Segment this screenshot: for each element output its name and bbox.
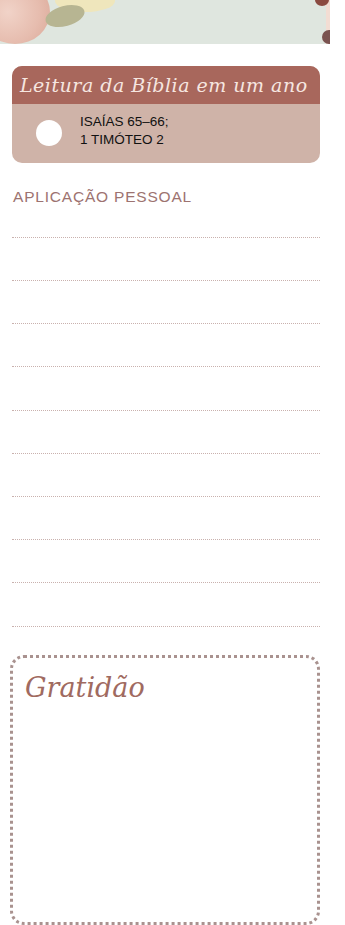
floral-banner xyxy=(0,0,330,44)
reading-plan-card: Leitura da Bíblia em um ano ISAÍAS 65–66… xyxy=(12,66,320,163)
writing-line[interactable] xyxy=(12,366,320,367)
writing-line[interactable] xyxy=(12,496,320,497)
leaf-decoration xyxy=(43,1,87,31)
rose-decoration xyxy=(0,0,50,44)
writing-line[interactable] xyxy=(12,453,320,454)
reading-plan-title: Leitura da Bíblia em um ano xyxy=(12,66,320,104)
writing-line[interactable] xyxy=(12,237,320,238)
writing-line[interactable] xyxy=(12,582,320,583)
writing-line[interactable] xyxy=(12,280,320,281)
reading-ref-line2: 1 TIMÓTEO 2 xyxy=(80,131,169,149)
berry-decoration xyxy=(322,30,330,44)
writing-line[interactable] xyxy=(12,539,320,540)
reading-plan-body: ISAÍAS 65–66; 1 TIMÓTEO 2 xyxy=(12,104,320,163)
personal-application-title: APLICAÇÃO PESSOAL xyxy=(13,188,192,206)
gratitude-title: Gratidão xyxy=(25,672,145,703)
reading-checkbox[interactable] xyxy=(36,120,62,146)
reading-ref-line1: ISAÍAS 65–66; xyxy=(80,113,169,131)
gratitude-box[interactable]: Gratidão xyxy=(10,655,320,925)
writing-line[interactable] xyxy=(12,410,320,411)
reading-references: ISAÍAS 65–66; 1 TIMÓTEO 2 xyxy=(80,113,169,149)
writing-line[interactable] xyxy=(12,626,320,627)
writing-line[interactable] xyxy=(12,323,320,324)
